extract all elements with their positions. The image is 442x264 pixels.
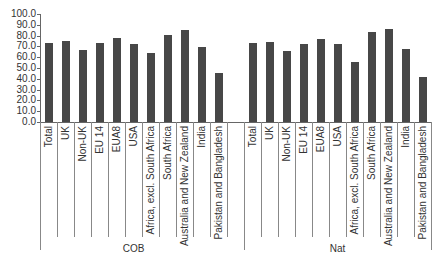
y-tick xyxy=(37,36,40,37)
category-separator xyxy=(91,122,92,237)
category-label: Non-UK xyxy=(281,126,292,162)
bar-nat-0 xyxy=(249,43,257,122)
bar-nat-8 xyxy=(385,29,393,122)
bar-chart: 0.010.020.030.040.050.060.070.080.090.01… xyxy=(0,0,442,264)
group-separator xyxy=(244,122,245,250)
category-separator xyxy=(176,122,177,237)
category-separator xyxy=(210,122,211,237)
bar-nat-7 xyxy=(368,32,376,122)
category-label: UK xyxy=(60,126,71,140)
category-label: EU 14 xyxy=(94,126,105,154)
category-label: USA xyxy=(128,126,139,147)
y-tick xyxy=(37,46,40,47)
category-label: EUA8 xyxy=(315,126,326,152)
bar-cob-8 xyxy=(181,30,189,122)
y-tick xyxy=(37,79,40,80)
category-label: India xyxy=(196,126,207,148)
category-separator xyxy=(278,122,279,237)
category-separator xyxy=(159,122,160,237)
y-tick-label: 10.0 xyxy=(2,106,36,116)
bar-cob-10 xyxy=(215,73,223,122)
bar-cob-5 xyxy=(130,44,138,122)
category-label: Pakistan and Bangladesh xyxy=(417,126,428,239)
y-tick-label: 90.0 xyxy=(2,20,36,30)
y-tick-label: 40.0 xyxy=(2,74,36,84)
group-label-nat: Nat xyxy=(308,243,368,254)
category-label: South Africa xyxy=(366,126,377,180)
category-separator xyxy=(193,122,194,237)
y-tick xyxy=(37,25,40,26)
category-separator xyxy=(108,122,109,237)
category-label: EUA8 xyxy=(111,126,122,152)
y-tick xyxy=(37,100,40,101)
category-label: EU 14 xyxy=(298,126,309,154)
x-axis-line xyxy=(40,122,431,123)
category-label: Australia and New Zealand xyxy=(179,126,190,246)
bar-cob-3 xyxy=(96,43,104,122)
category-separator xyxy=(346,122,347,237)
category-separator xyxy=(380,122,381,237)
bar-cob-6 xyxy=(147,53,155,122)
group-separator xyxy=(431,122,432,250)
y-tick-label: 60.0 xyxy=(2,52,36,62)
y-axis-line xyxy=(40,14,41,122)
bar-nat-2 xyxy=(283,51,291,122)
category-label: Non-UK xyxy=(77,126,88,162)
bar-cob-4 xyxy=(113,38,121,122)
bar-cob-2 xyxy=(79,50,87,122)
group-separator xyxy=(40,122,41,250)
category-label: India xyxy=(400,126,411,148)
y-tick-label: 50.0 xyxy=(2,63,36,73)
bar-nat-9 xyxy=(402,49,410,122)
y-tick xyxy=(37,90,40,91)
bar-nat-3 xyxy=(300,44,308,122)
category-label: Pakistan and Bangladesh xyxy=(213,126,224,239)
y-tick-label: 70.0 xyxy=(2,41,36,51)
bar-nat-10 xyxy=(419,77,427,122)
bar-cob-0 xyxy=(45,43,53,122)
category-separator xyxy=(397,122,398,237)
category-separator xyxy=(227,122,228,237)
category-label: Total xyxy=(247,126,258,147)
category-separator xyxy=(363,122,364,237)
category-separator xyxy=(329,122,330,237)
bar-nat-5 xyxy=(334,44,342,122)
y-tick xyxy=(37,111,40,112)
category-separator xyxy=(74,122,75,237)
category-separator xyxy=(125,122,126,237)
y-tick-label: 20.0 xyxy=(2,95,36,105)
bar-nat-1 xyxy=(266,42,274,122)
category-separator xyxy=(142,122,143,237)
bar-nat-6 xyxy=(351,62,359,122)
category-separator xyxy=(312,122,313,237)
y-tick xyxy=(37,68,40,69)
category-separator xyxy=(261,122,262,237)
category-label: UK xyxy=(264,126,275,140)
y-tick xyxy=(37,14,40,15)
category-separator xyxy=(57,122,58,237)
category-label: South Africa xyxy=(162,126,173,180)
bar-cob-1 xyxy=(62,41,70,122)
category-label: USA xyxy=(332,126,343,147)
category-label: Australia and New Zealand xyxy=(383,126,394,246)
y-tick-label: 30.0 xyxy=(2,85,36,95)
bar-cob-9 xyxy=(198,47,206,122)
y-tick-label: 0.0 xyxy=(2,117,36,127)
y-tick xyxy=(37,57,40,58)
group-label-cob: COB xyxy=(104,243,164,254)
category-separator xyxy=(295,122,296,237)
category-separator xyxy=(414,122,415,237)
category-label: Africa, excl. South Africa xyxy=(349,126,360,234)
category-label: Total xyxy=(43,126,54,147)
bar-nat-4 xyxy=(317,39,325,122)
y-tick-label: 80.0 xyxy=(2,31,36,41)
y-tick-label: 100.0 xyxy=(2,9,36,19)
bar-cob-7 xyxy=(164,35,172,122)
category-label: Africa, excl. South Africa xyxy=(145,126,156,234)
